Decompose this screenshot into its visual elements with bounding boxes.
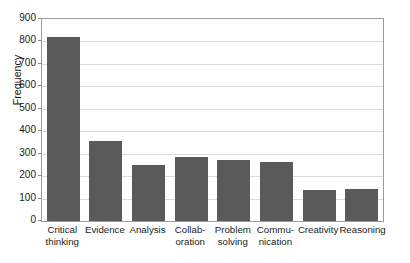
y-axis-tick-label: 100 (19, 192, 36, 204)
x-axis-tick-label: Creativity (297, 224, 340, 236)
y-axis-tick-label: 500 (19, 102, 36, 114)
x-axis-tick-label: Criticalthinking (41, 224, 84, 248)
y-axis-tick-label: 800 (19, 34, 36, 46)
y-axis-tick-labels: 0100200300400500600700800900 (0, 0, 40, 263)
bars-group (42, 19, 383, 221)
x-axis-tick-label-line: Evidence (84, 224, 127, 236)
y-axis-tick-label: 900 (19, 12, 36, 24)
plot-area (41, 18, 384, 222)
bar (260, 162, 293, 221)
y-axis-tick-label: 200 (19, 169, 36, 181)
bar (89, 141, 122, 221)
x-axis-tick-label: Collab-oration (169, 224, 212, 248)
x-axis-tick-label-line: Analysis (126, 224, 169, 236)
y-axis-tick-label: 0 (30, 214, 36, 226)
x-axis-tick-label-line: Collab- (169, 224, 212, 236)
x-axis-tick-label-line: solving (212, 236, 255, 248)
bar-chart: Frequency 0100200300400500600700800900 C… (0, 0, 410, 263)
x-axis-tick-label: Problemsolving (212, 224, 255, 248)
x-axis-tick-label-line: thinking (41, 236, 84, 248)
x-axis-tick-label-line: Commu- (254, 224, 297, 236)
bar (303, 190, 336, 221)
y-axis-tick-label: 600 (19, 79, 36, 91)
x-axis-tick-label: Commu-nication (254, 224, 297, 248)
x-axis-tick-label-line: Problem (212, 224, 255, 236)
x-axis-tick-labels: CriticalthinkingEvidenceAnalysisCollab-o… (41, 224, 382, 260)
bar (175, 157, 208, 221)
x-axis-tick-label-line: Creativity (297, 224, 340, 236)
x-axis-tick-label-line: nication (254, 236, 297, 248)
y-axis-tick-label: 300 (19, 147, 36, 159)
x-axis-tick-label-line: oration (169, 236, 212, 248)
bar (345, 189, 378, 221)
bar (132, 165, 165, 221)
x-axis-tick-label-line: Reasoning (339, 224, 382, 236)
x-axis-tick-label-line: Critical (41, 224, 84, 236)
y-axis-tick-label: 400 (19, 124, 36, 136)
bar (47, 37, 80, 221)
bar (217, 160, 250, 221)
x-axis-tick-label: Reasoning (339, 224, 382, 236)
x-axis-tick-label: Analysis (126, 224, 169, 236)
y-axis-tick-label: 700 (19, 57, 36, 69)
x-axis-tick-label: Evidence (84, 224, 127, 236)
